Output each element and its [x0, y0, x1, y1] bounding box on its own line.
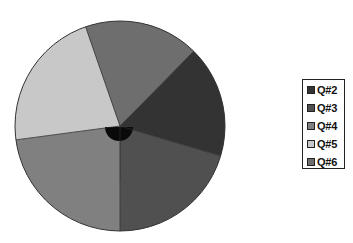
legend-label-q5: Q#5: [317, 138, 337, 150]
chart-legend: Q#2 Q#3 Q#4 Q#5 Q#6: [302, 79, 345, 169]
legend-label-q6: Q#6: [317, 156, 337, 168]
legend-swatch-q5: [307, 140, 315, 148]
legend-label-q3: Q#3: [317, 102, 337, 114]
legend-swatch-q2: [307, 86, 315, 94]
legend-label-q2: Q#2: [317, 84, 337, 96]
legend-swatch-q6: [307, 158, 315, 166]
legend-item-q4: Q#4: [307, 119, 337, 133]
pie-slice-q4: [16, 126, 120, 231]
pie-chart: [0, 0, 353, 243]
legend-swatch-q3: [307, 104, 315, 112]
legend-label-q4: Q#4: [317, 120, 337, 132]
legend-item-q2: Q#2: [307, 83, 337, 97]
legend-item-q6: Q#6: [307, 155, 337, 169]
legend-item-q3: Q#3: [307, 101, 337, 115]
legend-swatch-q4: [307, 122, 315, 130]
legend-item-q5: Q#5: [307, 137, 337, 151]
